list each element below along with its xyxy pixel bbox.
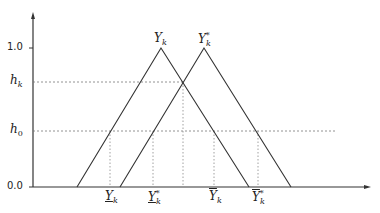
lower-yk-sub: k [113,196,118,205]
tick-label-1.0: 1.0 [7,41,23,52]
hk-main: h [10,73,18,87]
tick-label-0.0: 0.0 [7,180,23,191]
x-label-upper-yk: Yk [209,189,222,205]
level-label-hk: hk [10,73,23,89]
upper-yk-star-sup: * [260,189,264,198]
yk-main: Y [154,31,162,45]
yk-star-main: Y [198,32,206,46]
x-label-lower-yk-star: Yk* [148,189,160,206]
lower-yk-star-main: Y [148,190,156,204]
h0-main: h [10,122,18,136]
upper-yk-sub: k [217,196,222,205]
level-label-h0: h0 [10,122,23,138]
lower-yk-star-sub: k [156,197,161,206]
lower-yk-star-sup: * [156,189,160,198]
x-label-upper-yk-star: Yk* [252,189,264,206]
triangle-yk [77,48,249,187]
upper-yk-main: Y [209,189,217,203]
upper-yk-star-main: Y [252,190,260,204]
hk-sub: k [18,80,23,89]
membership-diagram [0,0,380,213]
yk-sub: k [162,38,167,47]
yk-star-sup: * [206,31,210,40]
x-axis-arrow-icon [364,185,371,189]
peak-label-yk-star: Yk* [198,31,210,48]
x-label-lower-yk: Yk [105,189,118,205]
upper-yk-star-sub: k [260,197,265,206]
y-axis-arrow-icon [31,12,35,19]
peak-label-yk: Yk [154,31,167,47]
yk-star-sub: k [206,39,211,48]
h0-sub: 0 [18,129,23,138]
lower-yk-main: Y [105,189,113,203]
